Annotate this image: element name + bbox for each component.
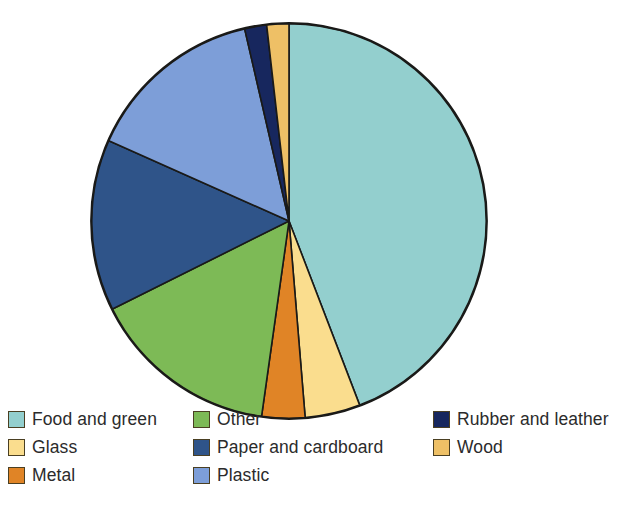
legend-swatch-icon xyxy=(433,439,450,456)
legend-item-food-and-green[interactable]: Food and green xyxy=(8,405,193,433)
pie-chart-figure: Food and greenGlassMetal OtherPaper and … xyxy=(0,0,644,514)
legend-swatch-icon xyxy=(193,439,210,456)
legend-item-label: Metal xyxy=(32,466,75,485)
legend-item-metal[interactable]: Metal xyxy=(8,461,193,489)
pie-chart-plot-area xyxy=(88,20,490,422)
legend-swatch-icon xyxy=(8,439,25,456)
chart-legend: Food and greenGlassMetal OtherPaper and … xyxy=(8,405,638,505)
legend-item-label: Other xyxy=(217,410,261,429)
pie-slice-group xyxy=(92,24,486,418)
legend-item-label: Glass xyxy=(32,438,77,457)
legend-item-glass[interactable]: Glass xyxy=(8,433,193,461)
legend-item-label: Rubber and leather xyxy=(457,410,609,429)
legend-item-wood[interactable]: Wood xyxy=(433,433,643,461)
legend-item-plastic[interactable]: Plastic xyxy=(193,461,433,489)
legend-column-2: OtherPaper and cardboardPlastic xyxy=(193,405,433,489)
legend-item-other[interactable]: Other xyxy=(193,405,433,433)
legend-item-label: Wood xyxy=(457,438,503,457)
legend-item-label: Paper and cardboard xyxy=(217,438,383,457)
legend-swatch-icon xyxy=(433,411,450,428)
legend-item-rubber-and-leather[interactable]: Rubber and leather xyxy=(433,405,643,433)
legend-swatch-icon xyxy=(193,411,210,428)
legend-swatch-icon xyxy=(8,467,25,484)
legend-swatch-icon xyxy=(8,411,25,428)
legend-item-paper-and-cardboard[interactable]: Paper and cardboard xyxy=(193,433,433,461)
legend-item-label: Food and green xyxy=(32,410,157,429)
pie-chart-svg xyxy=(88,20,490,422)
legend-column-1: Food and greenGlassMetal xyxy=(8,405,193,489)
legend-item-label: Plastic xyxy=(217,466,269,485)
legend-column-3: Rubber and leatherWood xyxy=(433,405,643,461)
legend-swatch-icon xyxy=(193,467,210,484)
